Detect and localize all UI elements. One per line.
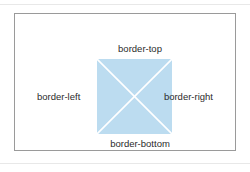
diagonal-cross-icon — [97, 59, 172, 134]
page-rule-top — [0, 4, 250, 5]
label-border-top: border-top — [15, 44, 250, 54]
content-box — [97, 59, 172, 134]
label-border-bottom: border-bottom — [15, 139, 250, 149]
label-border-right: border-right — [164, 92, 213, 102]
page-rule-bottom — [0, 163, 250, 164]
diagram-frame: border-top border-right border-bottom bo… — [14, 13, 236, 151]
label-border-left: border-left — [37, 92, 80, 102]
figure-canvas: border-top border-right border-bottom bo… — [0, 0, 250, 172]
